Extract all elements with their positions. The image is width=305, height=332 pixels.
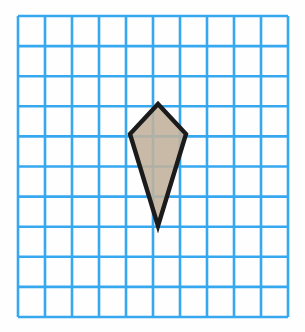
grid-and-kite-diagram (0, 0, 305, 332)
figure-container (0, 0, 305, 332)
